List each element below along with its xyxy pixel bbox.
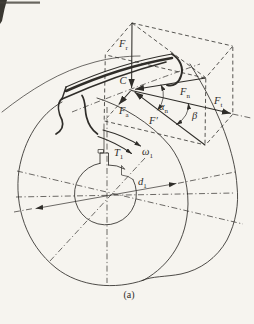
beta-arc [177,104,189,125]
figure-caption: (a) [123,289,134,301]
gear-force-diagram: Fr C Fn Fa Ft F′ αn β T1 ω1 d1 (a) [0,0,254,324]
front-face-rim [18,98,188,286]
bore-circle [74,163,136,225]
label-Fa: Fa [118,105,129,119]
label-C: C [120,75,128,86]
label-omega1: ω1 [142,146,153,160]
figure-helical-gear-forces: Fr C Fn Fa Ft F′ αn β T1 ω1 d1 (a) [0,0,254,324]
label-alpha-n: αn [159,101,169,115]
label-d1: d1 [138,176,147,190]
tooth-left-flank [56,99,63,135]
diagonal-centerline-shallow [17,171,243,224]
keyway-tick [99,150,104,154]
d1-line-ext-left [14,208,34,212]
label-Fprime: F′ [148,115,158,126]
scan-smudge [0,0,40,24]
labels: Fr C Fn Fa Ft F′ αn β T1 ω1 d1 (a) [114,38,222,301]
vector-Fn [136,78,206,89]
label-Ft: Ft [213,95,222,109]
d1-line-ext-right [178,172,235,183]
label-Fr: Fr [118,38,128,52]
label-Fn: Fn [179,86,190,100]
label-beta: β [191,110,198,121]
omega1-arrow [103,130,141,146]
tooth-right-flank [82,96,98,135]
ft-line-ext [233,114,252,118]
label-T1: T1 [114,147,124,161]
gear-blank [2,56,238,286]
diagonal-centerline-steep [50,158,145,261]
